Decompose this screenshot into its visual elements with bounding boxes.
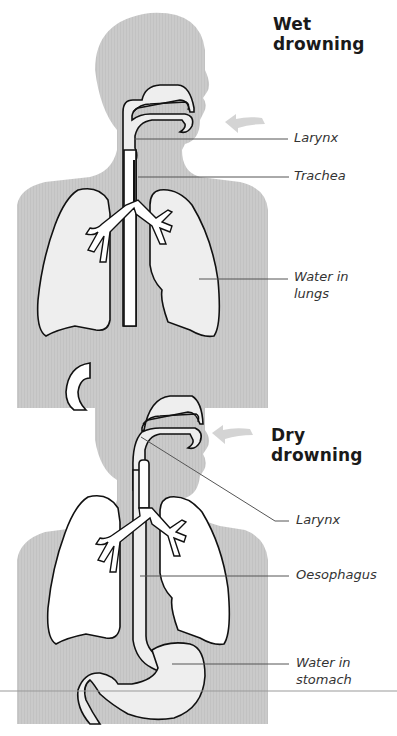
water-arrow-icon <box>212 425 253 444</box>
wet-title-line1: Wet <box>273 14 365 34</box>
label-water-in-stomach: Water in stomach <box>296 654 352 688</box>
drowning-diagram: Wet drowning Larynx Trachea Water in lun… <box>0 0 397 736</box>
label-larynx-dry: Larynx <box>296 511 340 528</box>
label-water-in-lungs-line1: Water in <box>294 268 349 285</box>
trachea-bottom <box>139 460 149 508</box>
water-arrow-icon <box>225 114 265 133</box>
label-water-in-stomach-line1: Water in <box>296 654 352 671</box>
wet-drowning-title: Wet drowning <box>273 14 365 54</box>
label-water-in-stomach-line2: stomach <box>296 671 352 688</box>
label-water-in-lungs-line2: lungs <box>294 285 349 302</box>
left-lung-dry <box>48 496 120 644</box>
label-oesophagus: Oesophagus <box>296 566 377 583</box>
diagram-illustration <box>0 0 397 736</box>
wet-drowning-figure <box>17 13 289 360</box>
dry-title-line2: drowning <box>271 445 363 465</box>
dry-title-line1: Dry <box>271 425 363 445</box>
dry-drowning-title: Dry drowning <box>271 425 363 465</box>
label-water-in-lungs: Water in lungs <box>294 268 349 302</box>
wet-title-line2: drowning <box>273 34 365 54</box>
label-trachea: Trachea <box>294 167 346 184</box>
label-larynx-wet: Larynx <box>294 129 338 146</box>
